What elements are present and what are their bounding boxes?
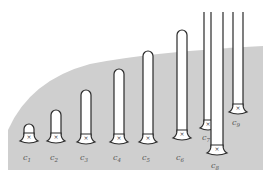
x-mark-icon: × <box>83 134 88 141</box>
x-mark-icon: × <box>205 120 210 127</box>
x-mark-icon: × <box>235 104 240 111</box>
tube-body <box>143 51 153 136</box>
tube-body <box>114 69 124 136</box>
tube-body <box>51 110 61 135</box>
x-mark-icon: × <box>214 145 219 152</box>
x-mark-icon: × <box>145 134 150 141</box>
x-mark-icon: × <box>116 134 121 141</box>
capillary-diagram: ×c1×c2×c3×c4×c5×c6×c7×c8×c9 <box>0 0 272 179</box>
tube-body <box>177 30 187 132</box>
x-mark-icon: × <box>26 133 31 140</box>
tube-body <box>81 90 91 136</box>
x-mark-icon: × <box>53 133 58 140</box>
x-mark-icon: × <box>179 130 184 137</box>
